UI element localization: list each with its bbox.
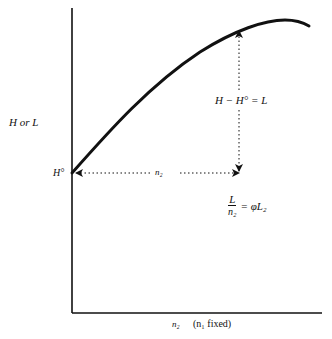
n2-arrow-label: n₂ xyxy=(153,167,165,177)
diagram-canvas xyxy=(0,0,332,339)
x-axis-note: (n₁ fixed) xyxy=(193,318,231,329)
l-arrow-label: H − H° = L xyxy=(214,93,268,107)
fraction-denominator: n₂ xyxy=(228,206,236,218)
fraction-rhs: = φL₂ xyxy=(240,200,266,212)
x-axis-label: n₂ xyxy=(172,319,180,329)
fraction-numerator: L xyxy=(228,193,236,206)
y-axis-label: H or L xyxy=(9,116,38,128)
thermodynamic-diagram: H or L H° n₂ H − H° = L L n₂ = φL₂ n₂ (n… xyxy=(0,0,332,339)
h-curve xyxy=(72,20,309,173)
partial-molar-equation: L n₂ = φL₂ xyxy=(228,193,267,218)
origin-label: H° xyxy=(53,167,64,178)
fraction: L n₂ xyxy=(228,193,236,218)
